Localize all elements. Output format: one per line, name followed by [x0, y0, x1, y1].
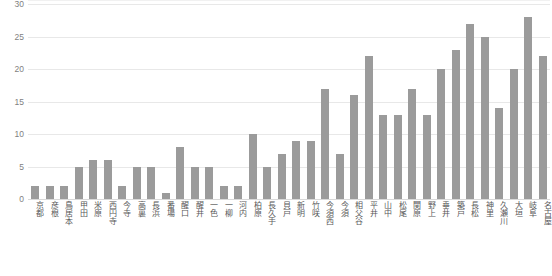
- bar-rect: [452, 50, 460, 200]
- bar[interactable]: [231, 4, 246, 199]
- x-tick-label: 甲田: [72, 201, 87, 217]
- bar[interactable]: [362, 4, 377, 199]
- bar[interactable]: [376, 4, 391, 199]
- x-tick-label: 今須西: [318, 201, 333, 225]
- x-tick-label: 貝戸: [275, 201, 290, 217]
- x-tick-label: 醒井: [188, 201, 203, 217]
- bar-rect: [466, 24, 474, 200]
- bar-rect: [524, 17, 532, 199]
- bar-rect: [191, 167, 199, 200]
- x-tick-label: 河内: [231, 201, 246, 217]
- bar-rect: [118, 186, 126, 199]
- bar-chart: 051015202530 京都彦根鳥居本甲田米原西円寺今寺高裏長浜番場醒口醒井一…: [0, 0, 552, 276]
- bar-rect: [539, 56, 547, 199]
- x-tick-label: 醒口: [173, 201, 188, 217]
- bar-rect: [234, 186, 242, 199]
- bar[interactable]: [434, 4, 449, 199]
- x-tick-label: 平井: [362, 201, 377, 217]
- bar[interactable]: [72, 4, 87, 199]
- x-tick-label: 相父谷: [347, 201, 362, 225]
- bar-rect: [379, 115, 387, 200]
- x-tick-label: 松尾: [391, 201, 406, 217]
- bar-rect: [46, 186, 54, 199]
- y-tick-label: 25: [0, 32, 24, 41]
- bar[interactable]: [101, 4, 116, 199]
- bar[interactable]: [260, 4, 275, 199]
- x-tick-label: 長浜: [144, 201, 159, 217]
- bar[interactable]: [449, 4, 464, 199]
- bar[interactable]: [333, 4, 348, 199]
- bar[interactable]: [275, 4, 290, 199]
- bar[interactable]: [188, 4, 203, 199]
- bar[interactable]: [536, 4, 551, 199]
- bar-rect: [408, 89, 416, 200]
- bar[interactable]: [173, 4, 188, 199]
- bar-rect: [220, 186, 228, 199]
- bar[interactable]: [347, 4, 362, 199]
- bar[interactable]: [304, 4, 319, 199]
- x-tick-label: 築戸: [449, 201, 464, 217]
- bar[interactable]: [507, 4, 522, 199]
- bar-rect: [147, 167, 155, 200]
- bar[interactable]: [202, 4, 217, 199]
- bar[interactable]: [391, 4, 406, 199]
- bar[interactable]: [405, 4, 420, 199]
- bar[interactable]: [144, 4, 159, 199]
- x-tick-label: 久瀬川: [492, 201, 507, 225]
- x-tick-label: 長松: [463, 201, 478, 217]
- bar[interactable]: [28, 4, 43, 199]
- x-tick-label: 一色: [202, 201, 217, 217]
- x-tick-label: 高裏: [130, 201, 145, 217]
- bar[interactable]: [246, 4, 261, 199]
- bar[interactable]: [492, 4, 507, 199]
- x-tick-label: 柏原: [246, 201, 261, 217]
- x-tick-label: 今須: [333, 201, 348, 217]
- x-tick-label: 鳥居本: [57, 201, 72, 225]
- bar-rect: [394, 115, 402, 200]
- bar-rect: [31, 186, 39, 199]
- bar[interactable]: [159, 4, 174, 199]
- bar-rect: [510, 69, 518, 199]
- bar[interactable]: [521, 4, 536, 199]
- bar-rect: [321, 89, 329, 200]
- x-tick-label: 神里: [478, 201, 493, 217]
- bar-rect: [205, 167, 213, 200]
- x-tick-label: 番場: [159, 201, 174, 217]
- x-tick-label: 山中: [376, 201, 391, 217]
- bar-rect: [133, 167, 141, 200]
- x-tick-label: 垂井: [434, 201, 449, 217]
- x-axis-labels: 京都彦根鳥居本甲田米原西円寺今寺高裏長浜番場醒口醒井一色一柳河内柏原長久手貝戸新…: [28, 201, 550, 276]
- bar[interactable]: [217, 4, 232, 199]
- bar[interactable]: [463, 4, 478, 199]
- bar-rect: [176, 147, 184, 199]
- bar-rect: [278, 154, 286, 200]
- bar-rect: [292, 141, 300, 200]
- bar[interactable]: [478, 4, 493, 199]
- bar[interactable]: [57, 4, 72, 199]
- x-tick-label: 新明: [289, 201, 304, 217]
- x-tick-label: 米原: [86, 201, 101, 217]
- gridline-clipped-top: [28, 0, 550, 1]
- x-tick-label: 竹咲: [304, 201, 319, 217]
- bar-rect: [437, 69, 445, 199]
- y-tick-label: 30: [0, 0, 24, 8]
- bar[interactable]: [130, 4, 145, 199]
- bar[interactable]: [420, 4, 435, 199]
- bar-rect: [307, 141, 315, 200]
- bar[interactable]: [289, 4, 304, 199]
- bar-rect: [263, 167, 271, 200]
- x-tick-label: 一柳: [217, 201, 232, 217]
- plot-area: [28, 4, 550, 199]
- bar-rect: [75, 167, 83, 200]
- bar-rect: [423, 115, 431, 200]
- bar[interactable]: [115, 4, 130, 199]
- x-axis-line: [28, 199, 550, 200]
- bar[interactable]: [318, 4, 333, 199]
- bar[interactable]: [43, 4, 58, 199]
- bar-rect: [249, 134, 257, 199]
- bar[interactable]: [86, 4, 101, 199]
- bar-rect: [365, 56, 373, 199]
- x-tick-label: 西円寺: [101, 201, 116, 225]
- bar-rect: [89, 160, 97, 199]
- bar-rect: [481, 37, 489, 200]
